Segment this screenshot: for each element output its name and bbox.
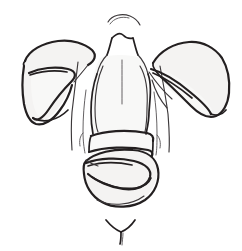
pubic-mark-stem-echo (122, 233, 123, 245)
pubic-mark-right-arm (121, 220, 135, 232)
pubic-mark (106, 220, 135, 245)
neck-right-line (133, 38, 138, 55)
head-crown (108, 15, 140, 25)
wash-layer (23, 41, 229, 205)
head-crown-arc (108, 15, 140, 25)
left-elbow-crease (80, 133, 83, 146)
right-arm-inner-line (154, 92, 157, 155)
neck-left-line (107, 38, 112, 55)
left-arm-inner-line (83, 90, 86, 153)
pubic-mark-stem (120, 232, 121, 244)
right-elbow-crease (157, 135, 160, 148)
sketch-canvas: Hand-drawn anatomical torso sketch (0, 0, 242, 251)
sketch-drawing: Hand-drawn anatomical torso sketch (0, 0, 242, 251)
head-crown-arc-echo (110, 17, 129, 24)
abdomen-band-right-edge (152, 141, 153, 156)
pubic-mark-left-arm (106, 220, 121, 232)
neck-collar-notch (112, 34, 133, 39)
